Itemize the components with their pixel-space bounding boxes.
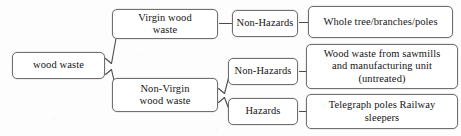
node-whole-tree-branches-poles: Whole tree/branches/poles xyxy=(308,6,453,38)
brace-nonvirgin-upper-stem xyxy=(219,89,225,94)
node-non-virgin-non-hazards: Non-Hazards xyxy=(228,58,298,85)
node-virgin-non-hazards-label: Non-Hazards xyxy=(236,17,294,29)
node-wood-waste-label: wood waste xyxy=(16,59,101,71)
brace-nonvirgin-lower-stem xyxy=(219,98,225,103)
node-whole-tree-branches-poles-label: Whole tree/branches/poles xyxy=(312,16,449,28)
node-telegraph-poles-railway-sleepers: Telegraph poles Railway sleepers xyxy=(306,94,458,129)
node-virgin-wood-waste-label: Virgin wood waste xyxy=(116,12,214,36)
brace-root-upper-stem xyxy=(106,59,112,64)
node-sawmill-manufacturing-waste-label: Wood waste from sawmills and manufacturi… xyxy=(310,48,454,85)
node-virgin-wood-waste: Virgin wood waste xyxy=(112,9,218,39)
node-non-virgin-wood-waste: Non-Virgin wood waste xyxy=(112,78,218,112)
node-sawmill-manufacturing-waste: Wood waste from sawmills and manufacturi… xyxy=(306,44,458,89)
node-virgin-non-hazards: Non-Hazards xyxy=(232,10,298,37)
node-telegraph-poles-railway-sleepers-label: Telegraph poles Railway sleepers xyxy=(310,99,454,123)
brace-root-lower-stem xyxy=(106,70,112,75)
node-non-virgin-wood-waste-label: Non-Virgin wood waste xyxy=(116,83,214,107)
node-non-virgin-hazards: Hazards xyxy=(228,98,298,125)
node-non-virgin-hazards-label: Hazards xyxy=(232,105,294,117)
node-wood-waste: wood waste xyxy=(12,52,105,79)
wood-waste-classification-diagram: wood waste Virgin wood waste Non-Virgin … xyxy=(0,0,461,136)
node-non-virgin-non-hazards-label: Non-Hazards xyxy=(232,65,294,77)
